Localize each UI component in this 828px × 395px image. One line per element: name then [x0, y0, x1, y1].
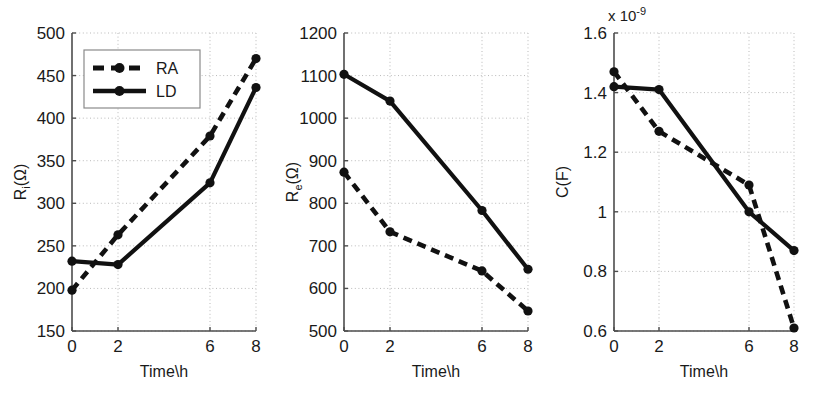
- data-point: [609, 82, 618, 91]
- data-point: [113, 260, 122, 269]
- y-axis-label: Ri(Ω): [12, 164, 32, 201]
- x-axis-label: Time\h: [140, 363, 188, 380]
- y-axis-label: C(F): [554, 166, 571, 198]
- data-point: [744, 180, 753, 189]
- y-tick-label: 1000: [299, 109, 337, 128]
- data-point: [654, 127, 663, 136]
- x-tick-label: 0: [609, 337, 618, 356]
- y-tick-label: 1200: [299, 24, 337, 43]
- data-point: [385, 97, 394, 106]
- data-point: [113, 230, 122, 239]
- legend-marker-ra: [115, 63, 125, 73]
- data-point: [523, 265, 532, 274]
- y-tick-label: 200: [37, 279, 65, 298]
- data-point: [251, 54, 260, 63]
- data-point: [477, 266, 486, 275]
- legend: RALD: [84, 50, 200, 108]
- series-ld: [339, 70, 532, 274]
- data-point: [609, 67, 618, 76]
- x-tick-label: 2: [654, 337, 663, 356]
- y-tick-label: 1100: [300, 67, 337, 86]
- y-tick-label: 300: [37, 194, 65, 213]
- gridlines: [614, 33, 794, 331]
- x-tick-label: 8: [251, 337, 260, 356]
- y-tick-label: 250: [37, 237, 65, 256]
- y-tick-label: 500: [37, 24, 65, 43]
- legend-label-ra: RA: [156, 60, 179, 77]
- data-point: [477, 206, 486, 215]
- y-tick-label: 1.2: [583, 143, 607, 162]
- x-tick-label: 6: [477, 337, 486, 356]
- axis-spines: [614, 33, 794, 331]
- data-point: [251, 83, 260, 92]
- data-point: [523, 306, 532, 315]
- y-tick-label: 1.4: [583, 84, 607, 103]
- data-point: [789, 323, 798, 332]
- panel-ri: 1502002503003504004505000268Time\hRi(Ω)R…: [0, 0, 276, 395]
- x-tick-label: 6: [205, 337, 214, 356]
- x-tick-label: 2: [113, 337, 122, 356]
- y-tick-label: 150: [37, 322, 65, 341]
- x-tick-label: 0: [67, 337, 76, 356]
- y-tick-label: 700: [309, 237, 337, 256]
- x-tick-label: 8: [789, 337, 798, 356]
- x-axis-label: Time\h: [680, 363, 728, 380]
- series-ra: [339, 168, 532, 316]
- panel-re: 5006007008009001000110012000268Time\hRe(…: [276, 0, 552, 395]
- data-point: [339, 70, 348, 79]
- data-point: [385, 227, 394, 236]
- data-point: [67, 257, 76, 266]
- y-tick-label: 0.6: [583, 322, 607, 341]
- data-point: [789, 246, 798, 255]
- y-tick-label: 1.6: [583, 24, 607, 43]
- data-point: [744, 207, 753, 216]
- y-tick-label: 0.8: [583, 262, 607, 281]
- x-tick-label: 2: [385, 337, 394, 356]
- axis-exponent-label: x 10-9: [608, 5, 646, 24]
- y-tick-label: 500: [309, 322, 337, 341]
- legend-marker-ld: [115, 86, 125, 96]
- data-point: [205, 131, 214, 140]
- x-tick-label: 8: [523, 337, 532, 356]
- x-tick-label: 6: [744, 337, 753, 356]
- y-tick-label: 600: [309, 279, 337, 298]
- y-tick-label: 350: [37, 152, 65, 171]
- y-tick-label: 800: [309, 194, 337, 213]
- legend-label-ld: LD: [156, 83, 176, 100]
- figure-three-panel-line-charts: 1502002503003504004505000268Time\hRi(Ω)R…: [0, 0, 828, 395]
- y-tick-label: 400: [37, 109, 65, 128]
- y-tick-label: 900: [309, 152, 337, 171]
- x-axis-label: Time\h: [412, 363, 460, 380]
- series-ra: [609, 67, 798, 332]
- x-tick-label: 0: [339, 337, 348, 356]
- panel-c: 0.60.811.21.41.60268Time\hC(F)x 10-9: [552, 0, 828, 395]
- y-tick-label: 450: [37, 67, 65, 86]
- data-point: [67, 286, 76, 295]
- y-axis-label: Re(Ω): [284, 162, 304, 202]
- data-point: [205, 178, 214, 187]
- series-ld: [609, 82, 798, 255]
- data-point: [654, 85, 663, 94]
- series-ld: [67, 83, 260, 269]
- data-point: [339, 168, 348, 177]
- y-tick-label: 1: [598, 203, 607, 222]
